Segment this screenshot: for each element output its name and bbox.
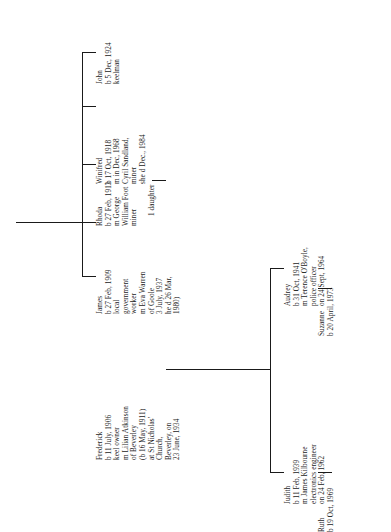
connector-stub-winifred xyxy=(82,106,96,107)
person-suzanne: Suzanneb 20 April, 1973 xyxy=(319,252,336,336)
connector-stub-john xyxy=(82,52,96,53)
person-text-line: keelman xyxy=(114,14,123,84)
person-frederick: Frederickb 11 July, 1906keel ownerm Lili… xyxy=(97,300,183,460)
person-text-line: 23 June, 1934 xyxy=(174,300,183,460)
connector-stub-frederick xyxy=(82,276,96,277)
person-rhoda-issue: 1 daughter xyxy=(149,156,158,216)
person-text-line: she d Dec., 1984 xyxy=(140,68,149,184)
connector-frederick-children-spine xyxy=(270,268,271,472)
person-ruth: Ruthb 19 Oct, 1969 xyxy=(319,456,336,532)
person-text-line: b 19 Oct, 1969 xyxy=(328,456,337,532)
person-text-line: 1 daughter xyxy=(149,156,158,216)
person-text-line: b 20 April, 1973 xyxy=(328,252,337,336)
person-john: Johnb 5 Dec, 1924keelman xyxy=(97,14,123,84)
connector-stub-judith xyxy=(270,472,284,473)
person-text-line: 1980) xyxy=(174,184,183,314)
person-winifred: Winifredb 17 Oct, 1918m in Dec, 1968Cyri… xyxy=(97,68,149,184)
connector-parent-trunk xyxy=(16,222,82,223)
connector-stub-rhoda xyxy=(82,164,96,165)
connector-stub-audrey xyxy=(270,268,284,269)
connector-stub-james xyxy=(82,222,96,223)
